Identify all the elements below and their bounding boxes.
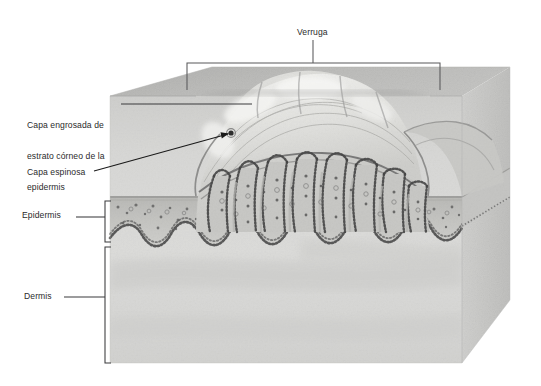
label-capa-espinosa: Capa espinosa bbox=[27, 167, 85, 177]
tissue-block bbox=[110, 67, 510, 363]
figure-page: Verruga Capa engrosada de estrato córneo… bbox=[0, 0, 541, 386]
label-line-3: epidermis bbox=[27, 182, 105, 192]
label-dermis: Dermis bbox=[24, 291, 52, 301]
label-capa-engrosada-estrato-corneo: Capa engrosada de estrato córneo de la e… bbox=[27, 100, 105, 212]
label-line-2: estrato córneo de la bbox=[27, 151, 105, 161]
verruga-cast-shadow bbox=[198, 90, 430, 96]
label-epidermis: Epidermis bbox=[22, 210, 61, 220]
label-verruga: Verruga bbox=[297, 27, 328, 37]
label-line-1: Capa engrosada de bbox=[27, 120, 105, 130]
capa-espinosa-target-cell bbox=[228, 130, 233, 135]
